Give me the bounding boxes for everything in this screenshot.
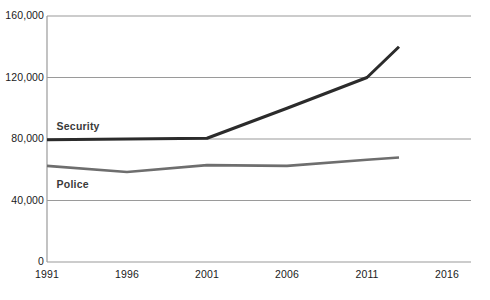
x-tick-label: 2001 <box>177 268 237 280</box>
y-tick-label: 80,000 <box>0 132 44 144</box>
series-line-security <box>47 47 399 140</box>
y-tick-label: 0 <box>0 255 44 267</box>
y-tick-label: 40,000 <box>0 194 44 206</box>
series-label-police: Police <box>57 178 89 190</box>
x-tick-label: 2011 <box>337 268 397 280</box>
x-tick-label: 1996 <box>97 268 157 280</box>
x-tick-label: 1991 <box>17 268 77 280</box>
series-line-police <box>47 157 399 172</box>
line-chart: 040,00080,000120,000160,000 199119962001… <box>0 0 490 300</box>
series-label-security: Security <box>57 120 100 132</box>
chart-plot-area <box>0 0 490 300</box>
y-tick-label: 160,000 <box>0 9 44 21</box>
x-tick-label: 2006 <box>257 268 317 280</box>
x-tick-label: 2016 <box>417 268 477 280</box>
y-tick-label: 120,000 <box>0 71 44 83</box>
